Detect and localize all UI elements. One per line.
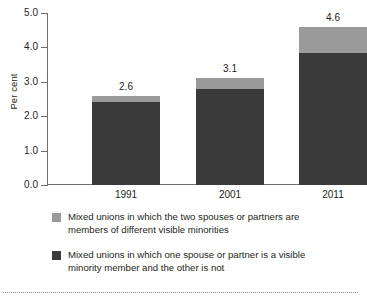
y-axis-tick-label: 3.0 (5, 77, 38, 87)
y-axis-tick-label: 0.0 (5, 180, 38, 190)
bar-1991[interactable] (92, 96, 160, 185)
bottom-dotted-divider (3, 292, 358, 293)
legend-item-label: Mixed unions in which the two spouses or… (68, 211, 340, 236)
legend-item-different-visible-minorities[interactable]: Mixed unions in which the two spouses or… (52, 211, 361, 236)
plot-area: Per cent 5.0 4.0 3.0 2.0 1.0 0.0 (0, 0, 361, 212)
bar-value-label-2001: 3.1 (196, 64, 264, 74)
x-axis-label-2011: 2011 (299, 190, 367, 200)
bar-2011[interactable] (299, 27, 367, 185)
y-axis-tick-mark (41, 185, 48, 186)
bar-segment-dark-1991 (92, 102, 160, 185)
y-axis-tick-label: 4.0 (5, 42, 38, 52)
y-axis-tick-label: 1.0 (5, 146, 38, 156)
legend-item-one-spouse-visible-minority[interactable]: Mixed unions in which one spouse or part… (52, 249, 361, 274)
bar-segment-dark-2001 (196, 89, 264, 185)
chart-legend: Mixed unions in which the two spouses or… (0, 211, 361, 274)
bar-segment-dark-2011 (299, 53, 367, 185)
x-axis-label-2001: 2001 (196, 190, 264, 200)
legend-swatch-light-icon (52, 213, 61, 222)
bar-segment-light-2001 (196, 78, 264, 88)
legend-item-label: Mixed unions in which one spouse or part… (68, 249, 340, 274)
bar-value-label-2011: 4.6 (299, 13, 367, 23)
bar-segment-light-1991 (92, 96, 160, 103)
x-axis-label-1991: 1991 (92, 190, 160, 200)
y-axis-tick-label: 2.0 (5, 111, 38, 121)
y-axis-tick-label: 5.0 (5, 8, 38, 18)
legend-swatch-dark-icon (52, 251, 61, 260)
bar-value-label-1991: 2.6 (92, 82, 160, 92)
bar-2001[interactable] (196, 78, 264, 185)
bars-layer (47, 13, 352, 185)
bar-segment-light-2011 (299, 27, 367, 53)
